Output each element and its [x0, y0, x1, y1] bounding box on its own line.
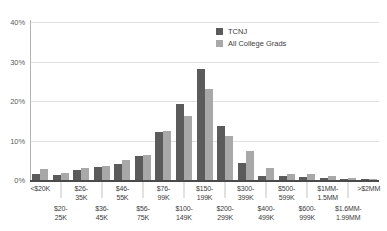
bar	[53, 175, 61, 180]
bar	[246, 151, 254, 180]
legend-swatch-icon	[216, 28, 223, 35]
bar	[328, 176, 336, 180]
x-axis-tick-mark	[101, 182, 102, 198]
bar-group	[153, 22, 174, 180]
bar	[61, 173, 69, 180]
legend-swatch-icon	[216, 40, 223, 47]
x-axis-tick-cell: $200-299K	[215, 182, 236, 231]
x-axis-tick-cell: $56-75K	[133, 182, 154, 231]
bar	[163, 131, 171, 180]
x-axis-tick-cell: $46-55K	[112, 182, 133, 231]
x-axis-tick-label: >$2MM	[357, 185, 380, 194]
x-axis-tick-label: $76-99K	[157, 185, 170, 202]
bar	[320, 178, 328, 180]
bar-group	[338, 22, 359, 180]
x-axis-tick-mark	[60, 182, 61, 198]
x-axis-tick-cell: $20-25K	[51, 182, 72, 231]
x-axis-tick-cell: >$2MM	[359, 182, 380, 231]
chart-legend: TCNJ All College Grads	[216, 27, 286, 48]
x-axis-tick-label: $26-35K	[75, 185, 88, 202]
x-axis-tick-label: $36-45K	[95, 205, 108, 222]
x-axis-tick-label: <$20K	[30, 185, 50, 194]
x-axis-tick-cell: $500-599K	[276, 182, 297, 231]
bar	[81, 168, 89, 180]
bar	[135, 156, 143, 180]
bar	[225, 136, 233, 180]
bar	[348, 178, 356, 180]
bar-group	[359, 22, 380, 180]
bar-group	[194, 22, 215, 180]
income-distribution-bar-chart: 40% 30% 20% 10% 0% TCNJ All College Grad…	[0, 0, 387, 231]
x-axis-tick-label: $56-75K	[136, 205, 149, 222]
bar	[217, 126, 225, 180]
bar	[32, 174, 40, 180]
bar-group	[174, 22, 195, 180]
x-axis-tick-cell: $76-99K	[153, 182, 174, 231]
bar	[40, 169, 48, 180]
bar	[155, 132, 163, 180]
legend-item-tcnj: TCNJ	[216, 27, 286, 36]
x-axis-labels: <$20K$20-25K$26-35K$36-45K$46-55K$56-75K…	[30, 182, 379, 231]
x-axis-tick-label: $46-55K	[116, 185, 129, 202]
x-axis-tick-cell: $400-499K	[256, 182, 277, 231]
bar	[197, 69, 205, 180]
bar	[114, 164, 122, 180]
bar	[266, 168, 274, 180]
bar	[176, 104, 184, 180]
bar	[205, 89, 213, 180]
bar-group	[133, 22, 154, 180]
bar	[143, 155, 151, 180]
x-axis-tick-cell: $36-45K	[92, 182, 113, 231]
bar-series-container	[30, 22, 379, 180]
x-axis-tick-cell: $600-999K	[297, 182, 318, 231]
x-axis-tick-mark	[183, 182, 184, 198]
x-axis-tick-label: $1MM-1.5MM	[317, 185, 338, 202]
x-axis-tick-cell: $26-35K	[71, 182, 92, 231]
y-axis-tick-label: 40%	[10, 18, 30, 27]
bar	[258, 176, 266, 180]
x-axis-tick-cell: $1.6MM-1.99MM	[338, 182, 359, 231]
bar	[94, 167, 102, 180]
x-axis-tick-mark	[225, 182, 226, 198]
bar	[361, 179, 369, 180]
x-axis-tick-label: $300-399K	[237, 185, 254, 202]
bar	[369, 179, 377, 180]
x-axis-tick-cell: $100-149K	[174, 182, 195, 231]
x-axis-tick-mark	[307, 182, 308, 198]
x-axis-tick-label: $500-599K	[278, 185, 295, 202]
bar	[122, 160, 130, 180]
x-axis-tick-label: $150-199K	[196, 185, 213, 202]
legend-label: TCNJ	[228, 27, 247, 36]
bar-group	[30, 22, 51, 180]
x-axis-tick-label: $600-999K	[299, 205, 316, 222]
x-axis-tick-label: $400-499K	[258, 205, 275, 222]
y-axis-tick-label: 30%	[10, 57, 30, 66]
bar	[73, 170, 81, 180]
x-axis-tick-mark	[348, 182, 349, 198]
bar-group	[317, 22, 338, 180]
bar-group	[92, 22, 113, 180]
x-axis-tick-cell: $150-199K	[194, 182, 215, 231]
x-axis-tick-mark	[266, 182, 267, 198]
bar-group	[51, 22, 72, 180]
x-axis-tick-cell: $300-399K	[235, 182, 256, 231]
x-axis-tick-cell: <$20K	[30, 182, 51, 231]
y-axis-tick-label: 0%	[14, 176, 30, 185]
legend-label: All College Grads	[228, 39, 286, 48]
x-axis-tick-label: $100-149K	[175, 205, 192, 222]
y-axis-tick-label: 20%	[10, 97, 30, 106]
bar	[238, 163, 246, 180]
bar-group	[112, 22, 133, 180]
legend-item-all-college-grads: All College Grads	[216, 39, 286, 48]
bar	[184, 116, 192, 180]
x-axis-tick-mark	[142, 182, 143, 198]
bar	[279, 176, 287, 180]
x-axis-tick-label: $20-25K	[54, 205, 67, 222]
bar	[299, 177, 307, 180]
bar-group	[71, 22, 92, 180]
bar	[307, 174, 315, 180]
bar	[102, 166, 110, 180]
bar	[340, 179, 348, 180]
bar	[287, 174, 295, 180]
bar-group	[297, 22, 318, 180]
